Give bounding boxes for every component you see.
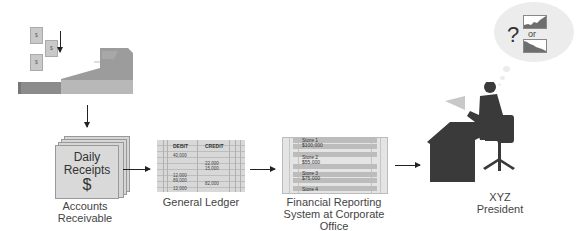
president-label: XYZ President	[470, 191, 530, 215]
financial-report-sheet: Store 1 $100,000 Store 2 $55,000 Store 3…	[282, 137, 388, 194]
financial-reporting-label: Financial Reporting System at Corporate …	[275, 196, 393, 231]
general-ledger-label: General Ledger	[155, 196, 247, 208]
falling-chart-icon	[523, 39, 547, 53]
president-at-desk-icon	[425, 82, 535, 182]
flow-arrow-right	[395, 165, 420, 166]
flow-arrow-right	[250, 169, 275, 170]
cash-register-icon	[18, 48, 138, 96]
accounts-receivable-label: Accounts Receivable	[45, 200, 125, 224]
daily-receipts-card: Daily Receipts $	[55, 145, 119, 199]
question-mark-icon: ?	[507, 22, 519, 48]
rising-chart-icon	[523, 15, 547, 29]
flow-arrow-right	[123, 169, 150, 170]
flow-arrow-down	[87, 105, 88, 127]
general-ledger-sheet: DEBIT CREDIT 40,000 22,000 15,000 12,000…	[157, 140, 245, 192]
dollar-sign-icon: $	[56, 177, 118, 193]
dollar-bill-icon: $	[30, 27, 43, 44]
